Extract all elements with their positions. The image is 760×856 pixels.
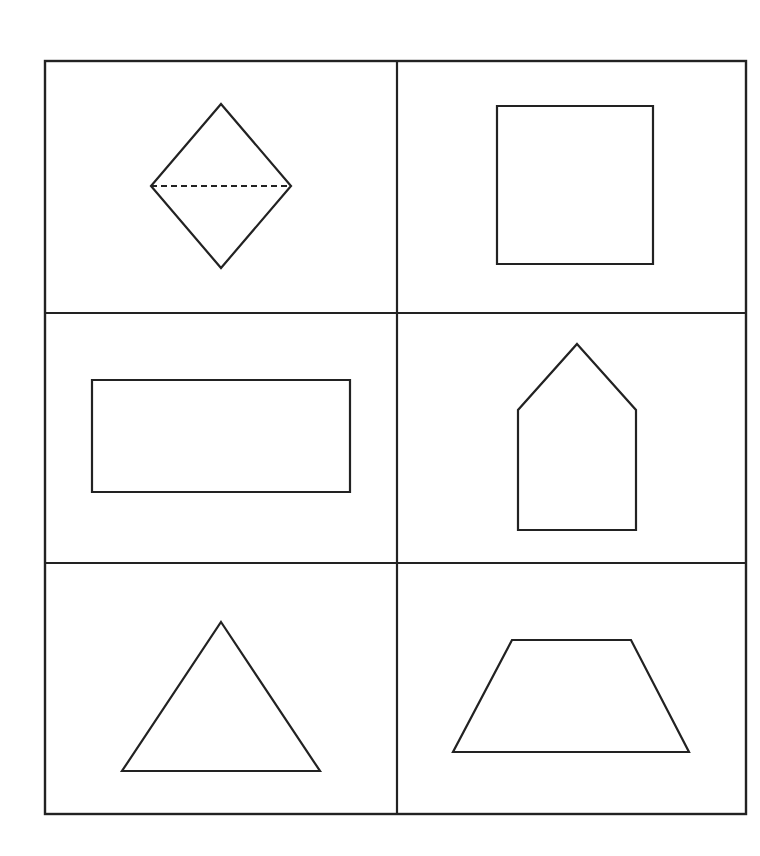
trapezoid-shape — [453, 640, 689, 752]
shape-grid-diagram — [0, 0, 760, 856]
rectangle-shape — [92, 380, 350, 492]
house-pentagon-shape — [518, 344, 636, 530]
shapes — [92, 104, 689, 771]
grid-lines — [45, 61, 746, 814]
square-shape — [497, 106, 653, 264]
grid-outer-border — [45, 61, 746, 814]
triangle-shape — [122, 622, 320, 771]
